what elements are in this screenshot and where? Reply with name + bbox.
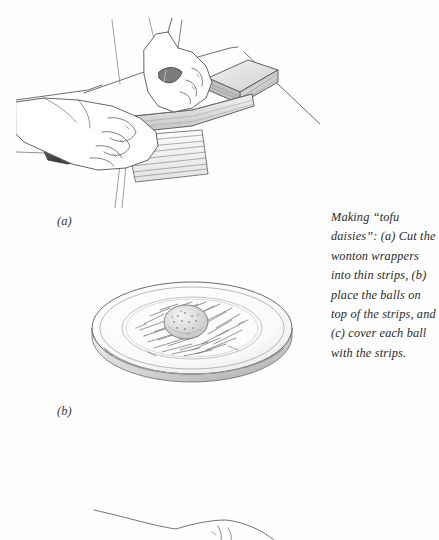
figure-b-drawing: [88, 266, 296, 402]
figure-a-cutting-wrappers: [16, 14, 320, 208]
figure-a-drawing: [16, 14, 320, 208]
figure-caption: Making “tofu daisies”: (a) Cut the wonto…: [331, 208, 437, 363]
panel-label-b: (b): [57, 404, 72, 419]
board-edge-left: [16, 85, 102, 100]
figure-b-plate-with-tofu-ball: [88, 266, 296, 402]
figure-c-drawing: [58, 486, 314, 540]
background-line-1: [112, 20, 120, 84]
background-line-4: [122, 166, 126, 208]
left-hand-holding-knife-handle: [16, 98, 158, 170]
figure-c-partial-hand: [58, 486, 314, 540]
background-line-3: [115, 164, 120, 208]
partial-hand-outline: [94, 510, 274, 540]
speckled-tofu-ball: [164, 305, 208, 339]
panel-label-a: (a): [57, 214, 72, 229]
right-hand-guiding-blade: [144, 18, 212, 112]
cookbook-illustration-page: (a): [0, 0, 439, 540]
